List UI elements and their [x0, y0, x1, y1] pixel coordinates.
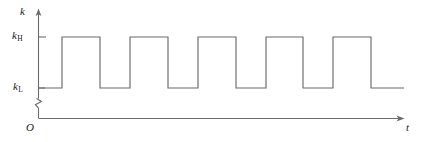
plot-canvas: [0, 0, 429, 142]
x-axis-label: t: [406, 122, 409, 133]
square-wave-figure: k kH kL O t: [0, 0, 429, 142]
y-axis-break-icon: [35, 99, 41, 108]
square-wave-trace: [39, 37, 405, 88]
y-axis-label: k: [20, 6, 25, 17]
level-low-label-subscript: L: [18, 85, 23, 94]
level-low-label: kL: [13, 81, 22, 92]
level-high-label: kH: [12, 30, 22, 41]
origin-label: O: [26, 122, 34, 133]
y-axis: [35, 12, 41, 118]
level-high-label-subscript: H: [17, 34, 22, 43]
